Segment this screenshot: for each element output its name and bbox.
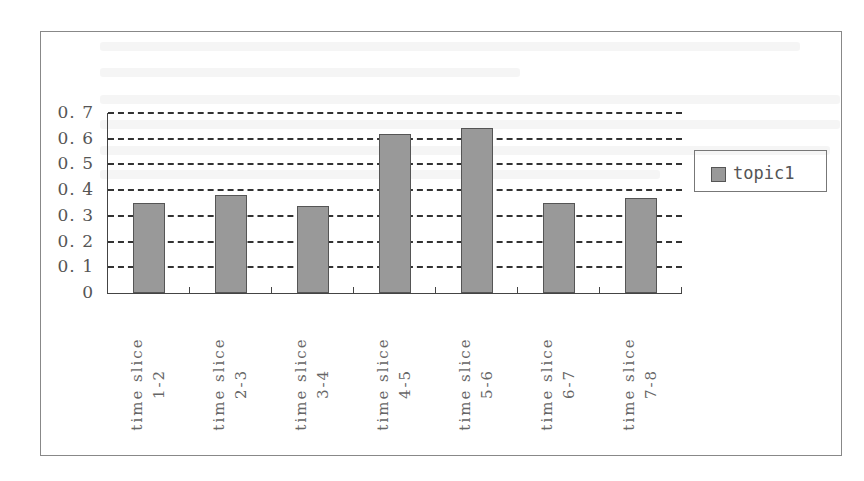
x-label-line-main: time slice xyxy=(372,330,394,438)
bar-topic1 xyxy=(297,206,329,293)
x-label-line-range: 3-4 xyxy=(312,330,334,438)
y-tick-label: 0. 5 xyxy=(48,155,94,172)
y-tick-label: 0. 6 xyxy=(48,130,94,147)
bar-topic1 xyxy=(379,134,411,293)
plot-area xyxy=(107,113,682,294)
x-label-line-main: time slice xyxy=(536,330,558,438)
x-label-line-range: 2-3 xyxy=(230,330,252,438)
x-label-line-range: 1-2 xyxy=(148,330,170,438)
x-tick-mark xyxy=(189,287,190,293)
y-tick-label: 0 xyxy=(48,284,94,301)
legend-label-topic1: topic1 xyxy=(733,161,794,185)
bar-topic1 xyxy=(215,195,247,293)
x-tick-label: time slice2-3 xyxy=(208,330,252,438)
x-label-line-range: 6-7 xyxy=(558,330,580,438)
x-label-line-main: time slice xyxy=(454,330,476,438)
x-tick-mark xyxy=(435,287,436,293)
x-label-line-main: time slice xyxy=(208,330,230,438)
x-label-line-main: time slice xyxy=(618,330,640,438)
x-tick-label: time slice4-5 xyxy=(372,330,416,438)
y-tick-label: 0. 1 xyxy=(48,258,94,275)
bar-topic1 xyxy=(625,198,657,293)
y-tick-label: 0. 7 xyxy=(48,104,94,121)
y-tick-label: 0. 3 xyxy=(48,207,94,224)
x-tick-label: time slice1-2 xyxy=(126,330,170,438)
x-tick-mark xyxy=(517,287,518,293)
bar-topic1 xyxy=(133,203,165,293)
x-label-line-range: 4-5 xyxy=(394,330,416,438)
legend-swatch-topic1 xyxy=(711,167,726,182)
legend: topic1 xyxy=(694,150,827,192)
x-label-line-range: 5-6 xyxy=(476,330,498,438)
x-tick-label: time slice3-4 xyxy=(290,330,334,438)
bar-topic1 xyxy=(461,128,493,293)
x-tick-mark xyxy=(681,287,682,293)
x-tick-label: time slice5-6 xyxy=(454,330,498,438)
x-label-line-range: 7-8 xyxy=(640,330,662,438)
x-label-line-main: time slice xyxy=(290,330,312,438)
x-tick-mark xyxy=(271,287,272,293)
bar-topic1 xyxy=(543,203,575,293)
y-tick-label: 0. 4 xyxy=(48,181,94,198)
x-tick-mark xyxy=(599,287,600,293)
x-tick-label: time slice7-8 xyxy=(618,330,662,438)
x-tick-mark xyxy=(353,287,354,293)
y-tick-label: 0. 2 xyxy=(48,233,94,250)
gridline xyxy=(108,112,682,114)
x-label-line-main: time slice xyxy=(126,330,148,438)
x-tick-label: time slice6-7 xyxy=(536,330,580,438)
